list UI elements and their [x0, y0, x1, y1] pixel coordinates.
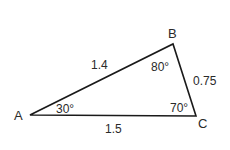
- vertex-b-label: B: [168, 26, 177, 41]
- vertex-c-label: C: [198, 116, 207, 131]
- triangle-diagram: A B C 1.4 0.75 1.5 30° 80° 70°: [0, 0, 230, 150]
- side-bc-label: 0.75: [193, 74, 217, 88]
- angle-c-label: 70°: [170, 101, 188, 115]
- side-ac-label: 1.5: [105, 122, 122, 136]
- vertex-a-label: A: [14, 108, 23, 123]
- angle-a-label: 30°: [56, 102, 74, 116]
- side-ab-label: 1.4: [91, 58, 108, 72]
- angle-b-label: 80°: [151, 60, 169, 74]
